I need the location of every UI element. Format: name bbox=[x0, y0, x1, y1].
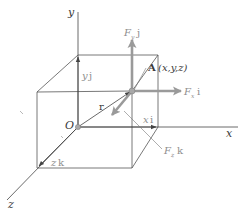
component-vectors bbox=[39, 57, 156, 166]
position-force-diagram: y x z O r y j x i z k A (x,y,z) F y j F … bbox=[0, 0, 240, 212]
svg-text:x: x bbox=[191, 92, 195, 99]
origin-label: O bbox=[65, 119, 74, 132]
svg-text:i: i bbox=[150, 114, 153, 125]
point-a-label: A (x,y,z) bbox=[147, 62, 187, 73]
position-vector-r bbox=[78, 92, 130, 127]
svg-text:z: z bbox=[50, 157, 57, 168]
axes bbox=[7, 12, 238, 200]
svg-text:k: k bbox=[177, 145, 184, 156]
svg-text:(x,y,z): (x,y,z) bbox=[158, 62, 187, 73]
fy-label: F y j bbox=[123, 27, 140, 41]
svg-text:y: y bbox=[130, 33, 135, 41]
svg-text:j: j bbox=[136, 27, 140, 38]
fz-force-arrow bbox=[112, 91, 132, 115]
svg-text:k: k bbox=[58, 157, 65, 168]
stray-tick bbox=[20, 111, 23, 114]
y-component-label: y j bbox=[81, 70, 92, 81]
leader-lines bbox=[124, 68, 162, 149]
z-component-label: z k bbox=[50, 157, 65, 168]
z-axis-label: z bbox=[7, 198, 14, 211]
point-a bbox=[129, 88, 135, 94]
r-vector-label: r bbox=[99, 101, 104, 112]
svg-text:A: A bbox=[147, 62, 156, 73]
box-bottom-right-depth-edge bbox=[132, 127, 158, 168]
x-axis-label: x bbox=[226, 127, 233, 140]
fx-label: F x i bbox=[183, 86, 200, 99]
box-top-right-depth-edge bbox=[132, 55, 158, 91]
y-axis-label: y bbox=[67, 6, 75, 19]
x-component-label: x i bbox=[143, 114, 153, 125]
svg-text:z: z bbox=[170, 151, 175, 158]
force-arrows bbox=[112, 40, 181, 115]
svg-text:i: i bbox=[197, 86, 200, 97]
point-a-leader bbox=[134, 68, 146, 90]
box-top-left-depth-edge bbox=[37, 55, 78, 92]
svg-text:x: x bbox=[143, 114, 149, 125]
stray-tick bbox=[61, 136, 63, 138]
svg-text:j: j bbox=[88, 70, 92, 81]
fz-label: F z k bbox=[163, 145, 184, 158]
svg-text:y: y bbox=[81, 70, 88, 81]
origin-point bbox=[75, 124, 80, 129]
box-front-top-edge bbox=[37, 91, 132, 92]
